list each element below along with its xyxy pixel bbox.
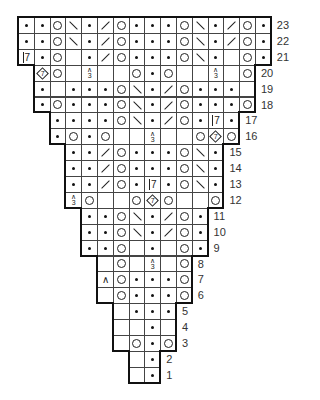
chart-cell-dot [81, 176, 98, 193]
purl-dot-icon [72, 183, 75, 186]
chart-cell-dot [97, 97, 114, 114]
row-number-label: 8 [198, 258, 204, 270]
chart-cell-yo [113, 271, 130, 288]
diamond-7-icon: 7 [210, 130, 223, 143]
yarn-over-circle-icon [132, 339, 141, 348]
purl-dot-icon [135, 278, 138, 281]
purl-dot-icon [88, 247, 91, 250]
yarn-over-circle-icon [117, 228, 126, 237]
chart-outline [49, 112, 51, 129]
chart-cell-dot [160, 144, 177, 161]
chart-cell-bslash [192, 49, 209, 66]
right-slant-decrease-icon [101, 148, 109, 156]
purl-dot-icon [72, 88, 75, 91]
right-slant-decrease-icon [164, 117, 172, 125]
purl-dot-icon [104, 215, 107, 218]
purl-dot-icon [151, 24, 154, 27]
chart-cell-blank [129, 351, 146, 368]
chart-outline [96, 256, 98, 273]
double-decrease-3-icon: ∧3 [71, 194, 76, 206]
cluster-7-icon: 7 [212, 115, 220, 126]
chart-cell-yo [176, 17, 193, 34]
chart-cell-yo [50, 33, 67, 50]
yarn-over-circle-icon [117, 212, 126, 221]
purl-dot-icon [88, 24, 91, 27]
purl-dot-icon [262, 24, 265, 27]
yarn-over-circle-icon [243, 37, 252, 46]
chart-cell-dot [97, 240, 114, 257]
right-slant-decrease-icon [101, 21, 109, 29]
chart-cell-dot [65, 81, 82, 98]
chart-cell-fslash [97, 176, 114, 193]
purl-dot-icon [151, 72, 154, 75]
chart-cell-yo [160, 192, 177, 209]
chart-cell-blank [223, 65, 240, 82]
chart-cell-caret: ∧ [97, 271, 114, 288]
chart-cell-dot [65, 160, 82, 177]
chart-cell-dot [144, 49, 161, 66]
yarn-over-circle-icon [243, 69, 252, 78]
purl-dot-icon [104, 231, 107, 234]
chart-outline [270, 17, 272, 34]
purl-dot-icon [199, 247, 202, 250]
purl-dot-icon [199, 88, 202, 91]
chart-outline [207, 207, 225, 209]
chart-cell-dot [34, 81, 51, 98]
chart-cell-dot [160, 160, 177, 177]
right-slant-decrease-icon [101, 180, 109, 188]
purl-dot-icon [72, 167, 75, 170]
left-slant-decrease-icon [196, 148, 204, 156]
chart-cell-dot [97, 81, 114, 98]
chart-outline [222, 176, 224, 193]
chart-cell-dot [81, 144, 98, 161]
chart-outline [64, 160, 66, 177]
yarn-over-circle-icon [180, 148, 189, 157]
chart-cell-yo [50, 97, 67, 114]
chart-cell-dot [160, 271, 177, 288]
purl-dot-icon [25, 40, 28, 43]
chart-cell-yo [113, 81, 130, 98]
left-slant-decrease-icon [196, 37, 204, 45]
yarn-over-circle-icon [164, 69, 173, 78]
chart-cell-yo [113, 112, 130, 129]
chart-cell-dec3: ∧3 [208, 65, 225, 82]
yarn-over-circle-icon [117, 116, 126, 125]
chart-cell-blank [192, 65, 209, 82]
chart-cell-bslash [192, 160, 209, 177]
chart-outline [49, 143, 67, 145]
chart-cell-dot [129, 17, 146, 34]
diamond-7-icon: 7 [146, 194, 159, 207]
purl-dot-icon [151, 326, 154, 329]
row-number-label: 17 [245, 114, 257, 126]
purl-dot-icon [214, 183, 217, 186]
chart-cell-yo [129, 335, 146, 352]
double-decrease-3-icon: ∧3 [213, 67, 218, 79]
purl-dot-icon [151, 231, 154, 234]
purl-dot-icon [135, 56, 138, 59]
chart-cell-dot [160, 17, 177, 34]
chart-cell-blank [113, 319, 130, 336]
chart-cell-k7: 7 [144, 176, 161, 193]
purl-dot-icon [88, 231, 91, 234]
purl-dot-icon [88, 88, 91, 91]
purl-dot-icon [88, 103, 91, 106]
row-number-label: 20 [261, 67, 273, 79]
yarn-over-circle-icon [117, 275, 126, 284]
purl-dot-icon [199, 231, 202, 234]
chart-cell-yo [113, 176, 130, 193]
chart-cell-blank [113, 128, 130, 145]
chart-cell-dot [34, 49, 51, 66]
purl-dot-icon [214, 151, 217, 154]
purl-dot-icon [88, 40, 91, 43]
chart-cell-bslash [192, 176, 209, 193]
chart-cell-bslash [192, 17, 209, 34]
yarn-over-circle-icon [180, 228, 189, 237]
yarn-over-circle-icon [53, 53, 62, 62]
chart-outline [270, 33, 272, 50]
chart-cell-fslash [160, 112, 177, 129]
chart-cell-dot [160, 176, 177, 193]
chart-outline [254, 65, 256, 82]
chart-cell-blank [129, 240, 146, 257]
row-number-label: 23 [277, 19, 289, 31]
chart-cell-yo [129, 192, 146, 209]
